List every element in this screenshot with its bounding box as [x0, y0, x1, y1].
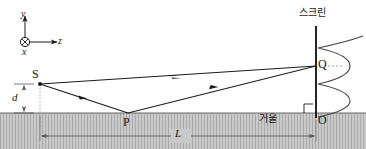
- coordinate-axes: [20, 16, 57, 47]
- right-angle-marker: [304, 104, 313, 113]
- axis-label-z: z: [58, 36, 62, 46]
- reflected-ray: [40, 66, 316, 113]
- screen-label: 스크린: [299, 8, 326, 18]
- point-label-O: O: [318, 114, 327, 126]
- direct-ray: [40, 66, 316, 84]
- mirror-label: 거울: [259, 114, 277, 124]
- axis-label-y: y: [21, 9, 25, 19]
- dimension-label-d: d: [12, 92, 18, 103]
- intensity-pattern-curve: [318, 36, 363, 117]
- source-point-marker: [38, 82, 42, 86]
- lloyds-mirror-diagram: y z x S P Q O d L 스크린 거울: [0, 0, 366, 149]
- point-label-P: P: [123, 116, 130, 128]
- axis-label-x: x: [22, 47, 26, 57]
- point-label-Q: Q: [318, 58, 327, 70]
- diagram-canvas: [0, 0, 366, 149]
- dimension-label-L: L: [175, 128, 181, 139]
- point-label-S: S: [32, 68, 39, 80]
